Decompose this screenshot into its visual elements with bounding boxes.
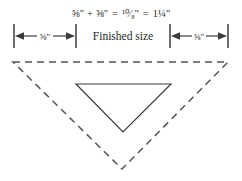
equation-sum-mixed: 1¼" [153, 8, 170, 19]
diagram-svg: ⅝"+⅝"=¹⁰⁄₈"=1¼" ⅝" Finished size ⅝" [0, 0, 242, 181]
left-arrow-head-right-icon [66, 32, 75, 40]
finished-size-label: Finished size [93, 30, 153, 42]
right-arrow-head-left-icon [171, 32, 180, 40]
equation-term-a: ⅝" [72, 8, 84, 19]
equation-equals-1: = [112, 8, 118, 19]
right-dimension-label: ⅝" [194, 32, 205, 42]
equation-text: ⅝"+⅝"=¹⁰⁄₈"=1¼" [72, 8, 170, 19]
right-dimension-arrow-group: ⅝" [171, 32, 227, 42]
finished-size-triangle-shape [76, 84, 171, 132]
left-dimension-label: ⅝" [40, 32, 51, 42]
right-arrow-head-right-icon [218, 32, 227, 40]
left-arrow-head-left-icon [15, 32, 24, 40]
equation-equals-2: = [143, 8, 149, 19]
diagram-canvas: ⅝"+⅝"=¹⁰⁄₈"=1¼" ⅝" Finished size ⅝" [0, 0, 242, 181]
left-dimension-arrow-group: ⅝" [15, 32, 75, 42]
equation-term-b: ⅝" [96, 8, 108, 19]
equation-group: ⅝"+⅝"=¹⁰⁄₈"=1¼" [72, 8, 170, 19]
equation-plus: + [87, 8, 93, 19]
center-label-group: Finished size [93, 30, 153, 42]
cut-size-triangle-shape [13, 62, 228, 169]
equation-sum-improper: ¹⁰⁄₈" [122, 8, 139, 19]
